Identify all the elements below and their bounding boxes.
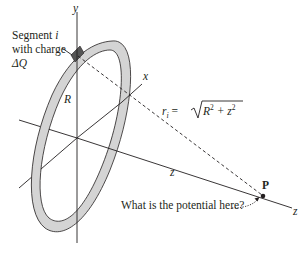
z-axis-mid-label: z [169, 166, 175, 178]
segment-label-line1: Segment i [12, 29, 58, 42]
z-axis-front [77, 138, 292, 208]
point-p [261, 194, 266, 199]
point-p-label: P [262, 179, 269, 191]
distance-radicand: R2 + z2 [202, 103, 236, 117]
segment-label-line2: with charge [12, 43, 66, 56]
radius-label: R [63, 93, 71, 105]
distance-formula: ri = [162, 105, 178, 120]
charged-ring [31, 41, 130, 232]
x-axis-back [19, 138, 77, 188]
y-axis-label: y [72, 2, 79, 15]
arrowhead-icon [255, 197, 260, 202]
delta-q-label: ΔQ [11, 57, 28, 69]
question-text: What is the potential here? [121, 199, 244, 212]
z-axis-end-label: z [292, 205, 298, 217]
charged-ring-diagram: Segment i with charge ΔQ y x R z z P ri … [0, 0, 306, 254]
x-axis-label: x [142, 70, 149, 82]
ring-band [31, 41, 130, 232]
